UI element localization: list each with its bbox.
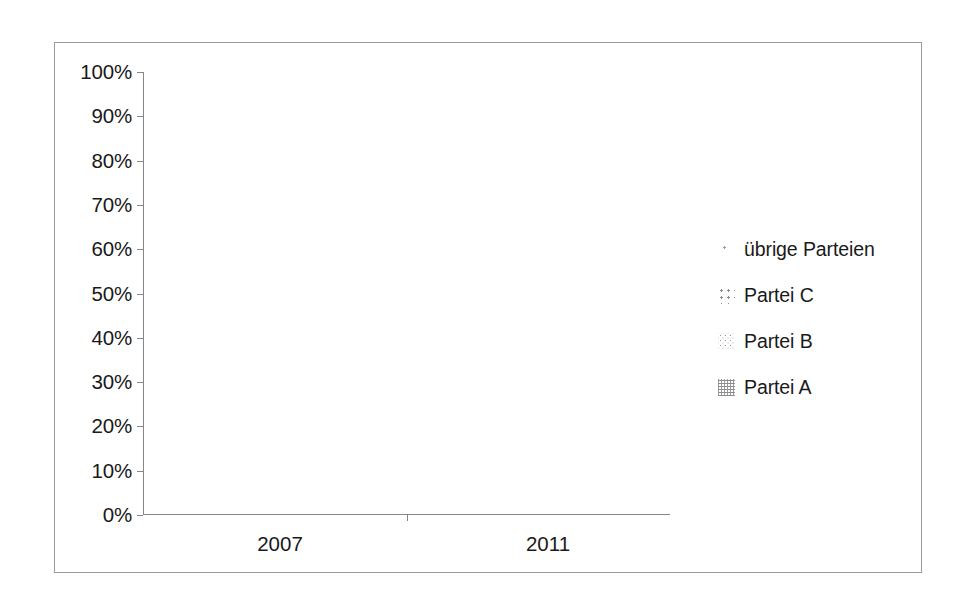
y-tick-10 bbox=[137, 471, 143, 472]
y-tick-30 bbox=[137, 382, 143, 383]
y-tick-80 bbox=[137, 161, 143, 162]
legend-label-partei-a: Partei A bbox=[744, 376, 812, 399]
y-tick-0 bbox=[137, 515, 143, 516]
x-category-label-2011: 2011 bbox=[458, 532, 638, 556]
legend-label-partei-b: Partei B bbox=[744, 330, 813, 353]
y-tick-label-60: 60% bbox=[92, 237, 132, 261]
medium-dots-swatch-icon bbox=[718, 333, 735, 350]
y-tick-label-20: 20% bbox=[92, 414, 132, 438]
x-axis-separator-tick bbox=[407, 515, 408, 521]
y-tick-label-50: 50% bbox=[92, 282, 132, 306]
y-tick-label-30: 30% bbox=[92, 370, 132, 394]
y-tick-100 bbox=[137, 72, 143, 73]
chart-legend: übrige Parteien Partei C Partei B Partei… bbox=[718, 226, 908, 410]
x-category-label-2007: 2007 bbox=[190, 532, 370, 556]
y-tick-60 bbox=[137, 249, 143, 250]
y-tick-label-70: 70% bbox=[92, 193, 132, 217]
y-tick-50 bbox=[137, 294, 143, 295]
y-tick-label-0: 0% bbox=[103, 503, 132, 527]
sparse-dots-swatch-icon bbox=[718, 241, 735, 258]
chart-frame: 100% 90% 80% 70% 60% 50% 40% 30% 20% 10%… bbox=[54, 42, 922, 573]
y-tick-label-40: 40% bbox=[92, 326, 132, 350]
dense-grid-swatch-icon bbox=[718, 379, 735, 396]
y-tick-40 bbox=[137, 338, 143, 339]
plot-area: 100% 90% 80% 70% 60% 50% 40% 30% 20% 10%… bbox=[143, 72, 670, 515]
legend-item-uebrige-parteien[interactable]: übrige Parteien bbox=[718, 226, 908, 272]
legend-item-partei-b[interactable]: Partei B bbox=[718, 318, 908, 364]
y-tick-90 bbox=[137, 116, 143, 117]
y-tick-label-90: 90% bbox=[92, 104, 132, 128]
legend-label-uebrige-parteien: übrige Parteien bbox=[744, 238, 875, 261]
legend-item-partei-c[interactable]: Partei C bbox=[718, 272, 908, 318]
fine-dots-swatch-icon bbox=[718, 287, 735, 304]
y-tick-20 bbox=[137, 426, 143, 427]
y-tick-label-10: 10% bbox=[92, 459, 132, 483]
legend-item-partei-a[interactable]: Partei A bbox=[718, 364, 908, 410]
y-axis-line bbox=[143, 72, 144, 515]
legend-label-partei-c: Partei C bbox=[744, 284, 814, 307]
y-tick-label-80: 80% bbox=[92, 149, 132, 173]
y-tick-70 bbox=[137, 205, 143, 206]
y-tick-label-100: 100% bbox=[80, 60, 132, 84]
